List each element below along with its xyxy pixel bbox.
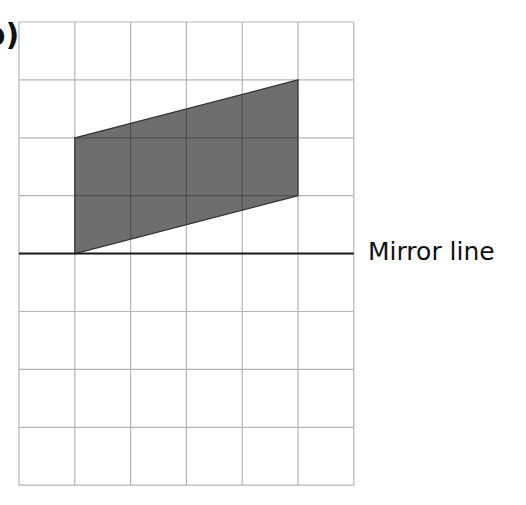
mirror-line-label: Mirror line (368, 236, 495, 268)
question-part-label: b) (0, 17, 19, 53)
